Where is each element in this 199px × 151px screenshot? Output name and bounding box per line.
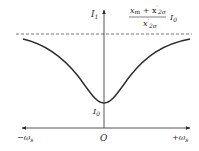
current-curve	[23, 39, 190, 103]
svg-text:x′2σ: x′2σ	[143, 17, 158, 29]
diagram-canvas: I1 xm + x′2σ x′2σ I0 I0 O −ωs +ωs	[0, 0, 199, 151]
asymptote-label: xm + x′2σ x′2σ I0	[129, 4, 177, 29]
minimum-label: I0	[92, 107, 100, 117]
svg-text:xm + x′2σ: xm + x′2σ	[130, 4, 167, 15]
svg-text:I0: I0	[169, 13, 177, 23]
x-axis-positive-label: +ωs	[172, 133, 188, 143]
x-axis-negative-label: −ωs	[17, 133, 33, 143]
y-axis-label: I1	[90, 9, 98, 20]
origin-label: O	[100, 133, 108, 143]
